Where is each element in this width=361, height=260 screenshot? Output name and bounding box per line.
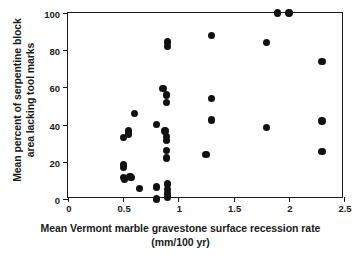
data-point xyxy=(163,147,170,154)
x-tick-1.5: 1.5 xyxy=(234,197,235,202)
x-tick-label-1: 1 xyxy=(177,203,182,214)
x-axis-label-line1: Mean Vermont marble gravestone surface r… xyxy=(0,221,361,235)
x-tick-label-0.5: 0.5 xyxy=(118,203,131,214)
x-tick-1: 1 xyxy=(178,197,179,202)
data-point xyxy=(318,117,325,124)
x-tick-2: 2 xyxy=(289,197,290,202)
x-tick-label-2: 2 xyxy=(287,203,292,214)
data-point xyxy=(263,124,270,131)
data-point xyxy=(131,110,138,117)
x-tick-0.5: 0.5 xyxy=(123,197,124,202)
y-tick-label-0: 0 xyxy=(55,195,60,206)
data-point xyxy=(163,154,170,161)
plot-area: 020406080100 00.511.522.5 xyxy=(67,12,343,198)
y-tick-label-100: 100 xyxy=(44,9,60,20)
y-axis-label-line2: area lacking tool marks xyxy=(24,18,37,182)
data-point xyxy=(153,195,160,202)
data-point xyxy=(125,130,132,137)
x-axis-label: Mean Vermont marble gravestone surface r… xyxy=(0,221,361,249)
data-points-layer xyxy=(68,13,342,197)
y-tick-label-80: 80 xyxy=(49,46,60,57)
data-point xyxy=(163,99,170,106)
data-point xyxy=(285,9,292,16)
data-point xyxy=(163,137,170,144)
x-tick-2.5: 2.5 xyxy=(344,197,345,202)
data-point xyxy=(136,185,143,192)
data-point xyxy=(208,95,215,102)
data-point xyxy=(318,58,325,65)
data-point xyxy=(153,121,160,128)
data-point xyxy=(127,174,134,181)
y-axis-label: Mean percent of serpentine block area la… xyxy=(0,0,48,200)
data-point xyxy=(164,193,171,200)
y-tick-label-60: 60 xyxy=(49,83,60,94)
scatter-chart-figure: Mean percent of serpentine block area la… xyxy=(0,0,361,260)
data-point xyxy=(208,32,215,39)
data-point xyxy=(163,91,170,98)
data-point xyxy=(318,148,325,155)
x-tick-label-2.5: 2.5 xyxy=(338,203,351,214)
y-axis-label-line1: Mean percent of serpentine block xyxy=(11,18,24,182)
x-tick-0: 0 xyxy=(68,197,69,202)
data-point xyxy=(208,116,215,123)
y-tick-label-20: 20 xyxy=(49,157,60,168)
x-tick-label-1.5: 1.5 xyxy=(228,203,241,214)
x-tick-label-0: 0 xyxy=(66,203,71,214)
data-point xyxy=(164,43,171,50)
data-point xyxy=(202,151,209,158)
data-point xyxy=(263,39,270,46)
y-tick-label-40: 40 xyxy=(49,120,60,131)
x-axis-label-line2: (mm/100 yr) xyxy=(0,235,361,249)
data-point xyxy=(274,9,281,16)
data-point xyxy=(153,183,160,190)
data-point xyxy=(120,164,127,171)
